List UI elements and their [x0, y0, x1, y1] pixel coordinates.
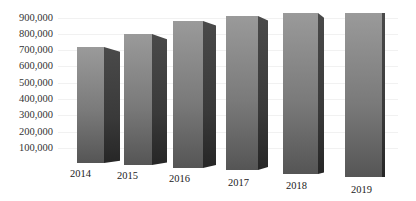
bar-2016 [173, 21, 216, 168]
x-tick-label: 2019 [351, 184, 372, 195]
bar-2018 [283, 13, 324, 174]
y-tick-label: 500,000 [0, 77, 53, 89]
bar-2017 [226, 16, 268, 170]
x-tick-label: 2015 [117, 170, 138, 181]
y-tick-label: 900,000 [0, 12, 53, 24]
y-tick-label: 800,000 [0, 28, 53, 40]
x-tick-label: 2016 [169, 173, 190, 184]
bar-2014 [77, 47, 120, 163]
y-tick-label: 300,000 [0, 109, 53, 121]
y-tick-label: 400,000 [0, 93, 53, 105]
y-tick-label: 200,000 [0, 126, 53, 138]
x-tick-label: 2014 [70, 168, 91, 179]
y-tick-label: 700,000 [0, 44, 53, 56]
y-tick-label: 600,000 [0, 60, 53, 72]
y-tick-label: 100,000 [0, 142, 53, 154]
x-tick-label: 2018 [286, 180, 307, 191]
x-tick-label: 2017 [228, 177, 249, 188]
bar-2019 [345, 13, 385, 177]
bar-2015 [124, 34, 167, 165]
